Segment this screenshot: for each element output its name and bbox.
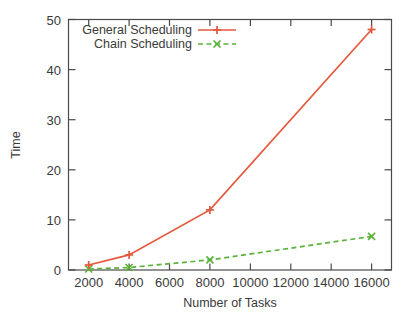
y-tick-label-40: 40 xyxy=(47,63,61,78)
x-axis-title: Number of Tasks xyxy=(183,296,277,310)
y-tick-label-10: 10 xyxy=(47,213,61,228)
y-tick-label-0: 0 xyxy=(54,263,61,278)
y-tick-label-30: 30 xyxy=(47,113,61,128)
x-tick-label-6000: 6000 xyxy=(155,275,184,290)
x-tick-labels: 2000 4000 6000 8000 10000 12000 14000 16… xyxy=(74,275,389,290)
line-chart-canvas: 0 10 20 30 40 50 2000 4000 6000 8000 100… xyxy=(0,0,407,315)
x-tick-label-14000: 14000 xyxy=(313,275,349,290)
x-tick-label-2000: 2000 xyxy=(74,275,103,290)
x-tick-label-4000: 4000 xyxy=(115,275,144,290)
chart-figure: 0 10 20 30 40 50 2000 4000 6000 8000 100… xyxy=(0,0,407,315)
legend-label-general-scheduling: General Scheduling xyxy=(82,23,192,37)
x-tick-label-12000: 12000 xyxy=(273,275,309,290)
x-tick-label-16000: 16000 xyxy=(354,275,390,290)
chart-background xyxy=(0,0,407,315)
y-tick-label-20: 20 xyxy=(47,163,61,178)
legend-label-chain-scheduling: Chain Scheduling xyxy=(94,37,192,51)
x-tick-label-8000: 8000 xyxy=(195,275,224,290)
y-tick-label-50: 50 xyxy=(47,13,61,28)
x-tick-label-10000: 10000 xyxy=(232,275,268,290)
y-axis-title: Time xyxy=(9,131,23,158)
